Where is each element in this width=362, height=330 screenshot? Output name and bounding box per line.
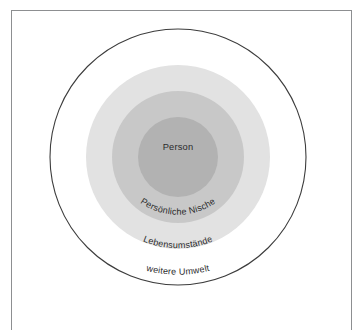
ring-person [138, 117, 218, 197]
label-person: Person [163, 142, 194, 152]
